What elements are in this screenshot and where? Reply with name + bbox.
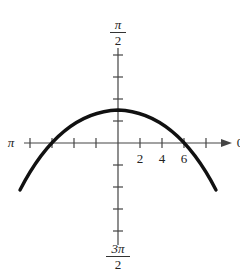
label-pi-over-2: π 2	[110, 18, 126, 47]
label-3pi-over-2: 3π 2	[106, 242, 130, 271]
tick-label-4: 4	[157, 152, 167, 165]
label-top-numerator: π	[110, 18, 126, 33]
axis-arrow-icon	[221, 139, 232, 147]
tick-label-6: 6	[179, 152, 189, 165]
label-bottom-numerator: 3π	[106, 242, 130, 257]
label-pi: π	[5, 136, 17, 149]
tick-label-2: 2	[135, 152, 145, 165]
label-bottom-denominator: 2	[106, 257, 130, 271]
label-zero: 0	[234, 136, 240, 149]
label-top-denominator: 2	[110, 33, 126, 47]
